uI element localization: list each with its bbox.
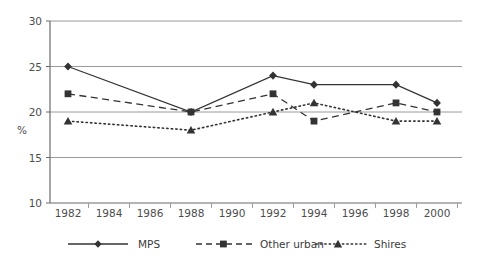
square-marker: [65, 90, 72, 97]
y-label-25: 25: [29, 61, 42, 73]
y-label-15: 15: [29, 152, 42, 164]
square-marker: [311, 118, 318, 125]
square-marker: [434, 109, 441, 116]
x-label-1992: 1992: [260, 207, 287, 219]
x-label-1984: 1984: [96, 207, 123, 219]
x-label-1996: 1996: [342, 207, 369, 219]
square-marker: [393, 100, 400, 107]
x-label-1990: 1990: [219, 207, 246, 219]
chart-background: [0, 0, 478, 259]
legend-label-mps: MPS: [138, 238, 160, 250]
y-label-30: 30: [29, 15, 42, 27]
x-label-1982: 1982: [55, 207, 82, 219]
x-label-2000: 2000: [424, 207, 451, 219]
x-label-1986: 1986: [137, 207, 164, 219]
x-label-1998: 1998: [383, 207, 410, 219]
x-label-1994: 1994: [301, 207, 328, 219]
square-marker: [270, 90, 277, 97]
y-label-20: 20: [29, 106, 42, 118]
x-label-1988: 1988: [178, 207, 205, 219]
square-marker-icon: [220, 241, 227, 248]
y-label-10: 10: [29, 197, 42, 209]
chart-svg: 30 25 20 15 10 % 1982 1984 1986 1988 199…: [0, 0, 478, 259]
legend-label-shires: Shires: [374, 238, 406, 250]
legend-label-other-urban: Other urban: [260, 238, 324, 250]
square-marker: [188, 109, 195, 116]
line-chart-figure: 30 25 20 15 10 % 1982 1984 1986 1988 199…: [0, 0, 478, 259]
y-axis-title: %: [17, 124, 27, 136]
